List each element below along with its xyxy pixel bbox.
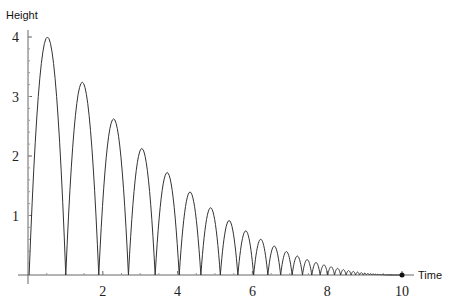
y-tick-label: 4 — [12, 30, 19, 45]
x-tick-label: 4 — [174, 284, 181, 299]
bouncing-ball-chart: Height 1234 Time 246810 — [0, 0, 450, 304]
y-axis: Height 1234 — [6, 9, 38, 284]
end-marker — [400, 273, 405, 278]
y-tick-label: 1 — [12, 209, 19, 224]
x-axis: Time 246810 — [18, 269, 442, 299]
y-axis-title: Height — [6, 9, 38, 21]
x-tick-label: 10 — [395, 284, 409, 299]
x-tick-label: 2 — [99, 284, 106, 299]
x-axis-title: Time — [418, 269, 442, 281]
y-tick-label: 3 — [12, 90, 19, 105]
y-tick-label: 2 — [12, 149, 19, 164]
x-tick-label: 8 — [324, 284, 331, 299]
height-curve — [29, 37, 402, 275]
x-tick-label: 6 — [249, 284, 256, 299]
